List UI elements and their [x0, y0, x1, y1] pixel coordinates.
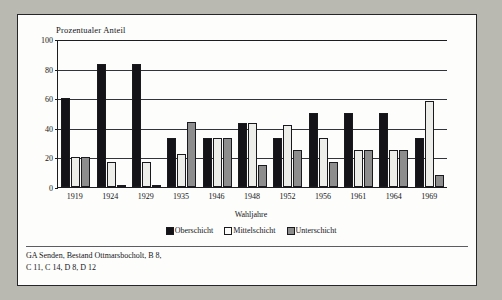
bar — [258, 165, 267, 187]
legend-swatch-icon — [287, 227, 295, 235]
bar — [223, 138, 232, 187]
bar — [142, 162, 151, 187]
legend-swatch-icon — [166, 227, 174, 235]
bar — [273, 138, 282, 187]
bar — [344, 113, 353, 187]
legend-item: Mittelschicht — [224, 226, 275, 235]
bar — [399, 150, 408, 187]
x-axis-tick-label: 1961 — [341, 192, 376, 206]
bar — [71, 157, 80, 187]
x-axis-tick-label: 1948 — [234, 192, 269, 206]
legend-label: Unterschicht — [296, 226, 337, 235]
x-axis-tick-label: 1969 — [412, 192, 447, 206]
bar — [132, 64, 141, 187]
bar-group — [270, 40, 305, 187]
bar-group — [376, 40, 411, 187]
bar — [177, 154, 186, 187]
bar — [238, 123, 247, 187]
y-axis-title: Prozentualer Anteil — [56, 25, 126, 35]
y-axis-tick-label: 40 — [45, 124, 53, 133]
bar — [435, 175, 444, 187]
bar-group — [93, 40, 128, 187]
chart-legend: OberschichtMittelschichtUnterschicht — [0, 226, 502, 235]
bar — [364, 150, 373, 187]
bar — [167, 138, 176, 187]
bar — [425, 101, 434, 187]
bar-group — [306, 40, 341, 187]
bar — [107, 162, 116, 187]
legend-item: Unterschicht — [287, 226, 337, 235]
bar — [415, 138, 424, 187]
bar — [81, 157, 90, 187]
bar — [117, 185, 126, 187]
x-axis-tick-label: 1956 — [305, 192, 340, 206]
bar — [389, 150, 398, 187]
bar — [319, 138, 328, 187]
bar — [213, 138, 222, 187]
x-axis-title: Wahljahre — [0, 210, 502, 219]
y-axis-tick-label: 20 — [45, 154, 53, 163]
x-axis-tick-labels: 1919192419291935194619481952195619611964… — [57, 192, 447, 206]
bar-group — [199, 40, 234, 187]
plot-area: 020406080100 — [57, 40, 447, 188]
bar — [203, 138, 212, 187]
bar — [354, 150, 363, 187]
bar-group — [58, 40, 93, 187]
x-axis-tick-label: 1929 — [128, 192, 163, 206]
y-axis-tick-label: 80 — [45, 65, 53, 74]
bar — [187, 122, 196, 187]
chart-page: Prozentualer Anteil 020406080100 1919192… — [0, 0, 502, 300]
bar-group — [164, 40, 199, 187]
bar-groups — [58, 40, 447, 187]
y-axis-tick-label: 100 — [41, 36, 53, 45]
bar-group — [235, 40, 270, 187]
bar — [309, 113, 318, 187]
y-axis-tick-label: 60 — [45, 95, 53, 104]
bar-group — [129, 40, 164, 187]
bar — [97, 64, 106, 187]
x-axis-tick-label: 1924 — [92, 192, 127, 206]
x-axis-tick-label: 1935 — [163, 192, 198, 206]
source-divider — [26, 246, 468, 247]
bar — [293, 150, 302, 187]
legend-item: Oberschicht — [166, 226, 214, 235]
x-axis-tick-label: 1952 — [270, 192, 305, 206]
bar — [61, 98, 70, 187]
legend-swatch-icon — [224, 227, 232, 235]
bar-group — [341, 40, 376, 187]
x-axis-tick-label: 1919 — [57, 192, 92, 206]
source-note: GA Senden, Bestand Ottmarsbocholt, B 8, … — [26, 250, 456, 273]
legend-label: Mittelschicht — [233, 226, 275, 235]
source-line-1: GA Senden, Bestand Ottmarsbocholt, B 8, — [26, 250, 456, 262]
x-axis-tick-label: 1946 — [199, 192, 234, 206]
bar-group — [412, 40, 447, 187]
bar — [329, 162, 338, 187]
y-axis-tick-label: 0 — [49, 184, 53, 193]
bar — [379, 113, 388, 187]
source-line-2: C 11, C 14, D 8, D 12 — [26, 262, 456, 274]
bar — [152, 185, 161, 187]
legend-label: Oberschicht — [175, 226, 214, 235]
bar — [248, 123, 257, 187]
x-axis-tick-label: 1964 — [376, 192, 411, 206]
bar — [283, 125, 292, 187]
y-axis-tick-mark — [55, 188, 58, 189]
